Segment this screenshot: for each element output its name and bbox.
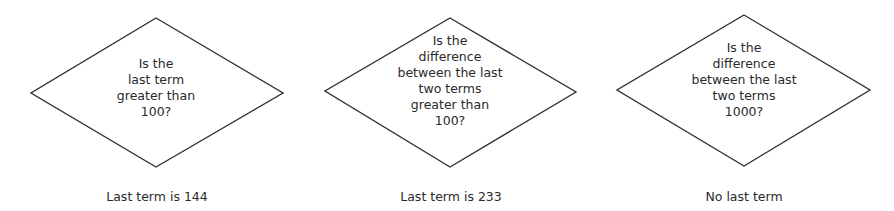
decision-1-question: Is the last term greater than 100?	[96, 56, 216, 120]
decision-3-question: Is the difference between the last two t…	[674, 40, 814, 120]
question-line: two terms	[380, 81, 520, 97]
decision-2-caption: Last term is 233	[371, 189, 531, 205]
question-line: greater than	[96, 88, 216, 104]
question-line: 100?	[96, 104, 216, 120]
decision-1-caption: Last term is 144	[77, 189, 237, 205]
question-line: difference	[380, 49, 520, 65]
flowchart-decisions-diagram: Is the last term greater than 100? Is th…	[0, 0, 894, 211]
question-line: last term	[96, 72, 216, 88]
decision-3-caption: No last term	[664, 189, 824, 205]
question-line: greater than	[380, 97, 520, 113]
question-line: between the last	[380, 65, 520, 81]
question-line: Is the	[380, 33, 520, 49]
question-line: 100?	[380, 113, 520, 129]
decision-2-question: Is the difference between the last two t…	[380, 33, 520, 129]
question-line: Is the	[674, 40, 814, 56]
question-line: Is the	[96, 56, 216, 72]
question-line: between the last	[674, 72, 814, 88]
question-line: difference	[674, 56, 814, 72]
question-line: 1000?	[674, 104, 814, 120]
question-line: two terms	[674, 88, 814, 104]
